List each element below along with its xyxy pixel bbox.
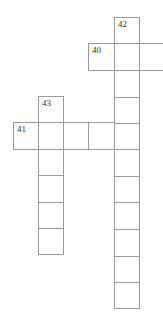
cell-42-down-8[interactable] [114,202,140,230]
clue-number-41: 41 [17,125,26,134]
cell-43-down-4[interactable] [38,175,64,203]
cell-43-down-6[interactable] [38,228,64,255]
cell-42-down-5[interactable] [114,123,140,150]
cell-43-down-1[interactable]: 43 [38,96,64,123]
cell-41-across-1[interactable]: 41 [13,122,39,150]
cell-41-across-3[interactable] [63,122,89,150]
cell-42-down-6[interactable] [114,149,140,177]
cell-42-down-7[interactable] [114,176,140,203]
cell-42-down-2[interactable] [114,43,140,71]
cell-41-across-4[interactable] [88,122,115,150]
cell-42-down-1[interactable]: 42 [114,17,140,44]
cell-43-down-5[interactable] [38,202,64,229]
cell-42-down-11[interactable] [114,282,140,309]
clue-number-43: 43 [42,99,51,108]
cell-42-down-9[interactable] [114,229,140,257]
cell-40-across-1[interactable]: 40 [88,43,115,71]
crossword-grid: 42 40 43 41 [0,0,163,318]
cell-42-down-3[interactable] [114,70,140,98]
clue-number-40: 40 [92,46,101,55]
cell-43-down-3[interactable] [38,149,64,176]
cell-42-down-10[interactable] [114,256,140,283]
cell-42-down-4[interactable] [114,97,140,124]
cell-41-across-2[interactable] [38,122,64,150]
clue-number-42: 42 [118,20,127,29]
cell-40-across-3[interactable] [139,43,163,71]
